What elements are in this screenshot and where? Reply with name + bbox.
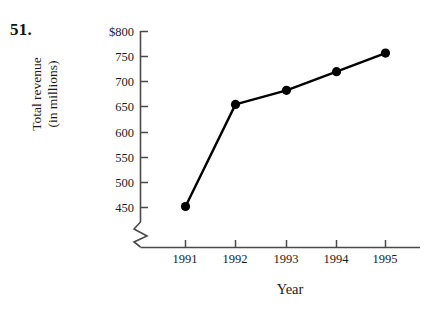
revenue-line-chart: Total revenue (in millions) $800 750 700…	[0, 0, 435, 312]
x-axis-tick-labels: 1991 1992 1993 1994 1995	[0, 252, 435, 272]
x-axis-ticks	[186, 240, 386, 248]
data-point-1992	[231, 100, 240, 109]
data-point-1991	[181, 202, 190, 211]
x-axis-title: Year	[240, 281, 340, 298]
data-point-1993	[282, 86, 291, 95]
x-tick-label: 1993	[263, 252, 309, 267]
y-axis-ticks	[141, 32, 149, 208]
x-tick-label: 1995	[362, 252, 408, 267]
axis-break-icon	[134, 222, 147, 247]
x-tick-label: 1991	[162, 252, 208, 267]
x-tick-label: 1992	[212, 252, 258, 267]
revenue-series-line	[186, 53, 386, 206]
x-tick-label: 1994	[313, 252, 359, 267]
data-point-1994	[332, 67, 341, 76]
revenue-data-points	[181, 49, 390, 212]
data-point-1995	[381, 49, 390, 58]
